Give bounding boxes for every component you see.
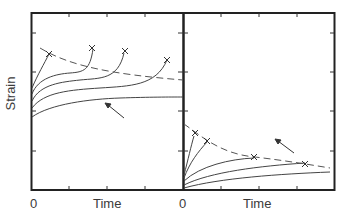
left-failure-markers	[46, 45, 170, 63]
right-arrow-icon	[275, 139, 294, 153]
left-x-axis-label: Time	[93, 196, 121, 211]
creep-chart	[0, 0, 347, 219]
right-panel-frame	[184, 13, 335, 190]
right-creep-curves	[184, 136, 330, 188]
left-arrow-icon	[105, 103, 124, 118]
right-x-origin-label: 0	[179, 196, 186, 211]
left-panel-frame	[32, 13, 184, 190]
left-x-origin-label: 0	[30, 196, 37, 211]
y-axis-label: Strain	[3, 77, 18, 111]
right-x-axis-label: Time	[243, 196, 271, 211]
left-envelope	[40, 48, 183, 80]
